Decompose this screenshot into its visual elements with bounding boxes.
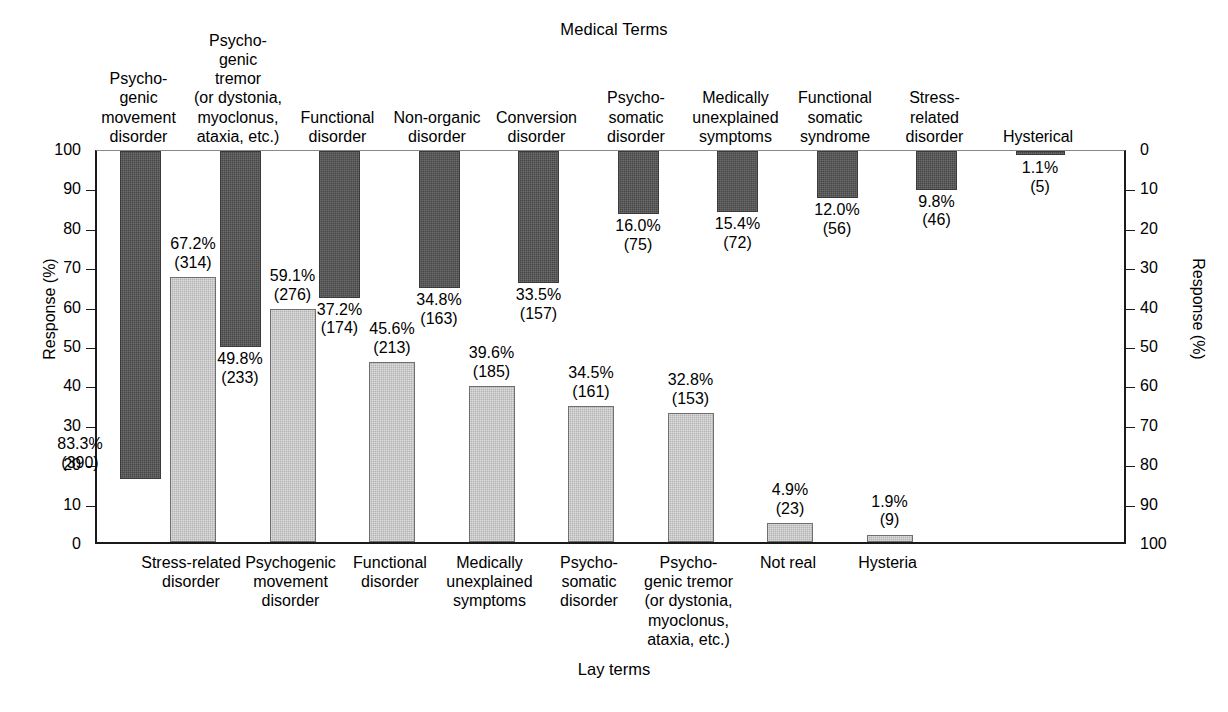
y-tick-right <box>1124 309 1135 310</box>
bar-value-label-medical: 1.1%(5) <box>985 159 1095 197</box>
y-tick-label-right: 80 <box>1140 457 1186 473</box>
y-tick-label-right: 90 <box>1140 497 1186 513</box>
bar-value-label-medical: 15.4%(72) <box>683 215 793 253</box>
bar-lay <box>767 523 813 542</box>
y-tick-right <box>1124 348 1135 349</box>
y-tick-left <box>86 427 97 428</box>
bar-lay <box>469 386 515 542</box>
bar-medical <box>916 151 957 190</box>
y-tick-right <box>1124 466 1135 467</box>
bar-lay <box>668 413 714 542</box>
chart-bottom-title: Lay terms <box>0 660 1228 679</box>
bar-value-label-lay: 45.6%(213) <box>337 320 447 358</box>
y-tick-right <box>1124 269 1135 270</box>
bar-lay <box>270 309 316 542</box>
bar-medical <box>817 151 858 198</box>
y-tick-label-left: 30 <box>35 418 81 434</box>
bar-value-label-lay: 32.8%(153) <box>636 371 746 409</box>
y-tick-left <box>86 190 97 191</box>
bar-medical <box>120 151 161 479</box>
y-tick-label-right: 20 <box>1140 221 1186 237</box>
y-tick-label-left: 10 <box>35 497 81 513</box>
bar-value-label-medical: 33.5%(157) <box>484 286 594 324</box>
y-tick-label-left: 40 <box>35 378 81 394</box>
y-tick-left <box>86 506 97 507</box>
y-tick-left <box>86 269 97 270</box>
y-tick-left <box>86 387 97 388</box>
bar-medical <box>618 151 659 214</box>
bar-lay <box>170 277 216 542</box>
bar-lay <box>568 406 614 542</box>
y-tick-label-left: 50 <box>35 339 81 355</box>
y-tick-label-right: 30 <box>1140 260 1186 276</box>
bar-medical <box>518 151 559 283</box>
y-tick-left <box>86 309 97 310</box>
y-tick-right <box>1124 387 1135 388</box>
bar-value-label-lay: 4.9%(23) <box>735 481 845 519</box>
y-tick-right <box>1124 506 1135 507</box>
bar-value-label-medical: 16.0%(75) <box>583 217 693 255</box>
y-tick-right <box>1124 190 1135 191</box>
y-tick-label-left: 100 <box>35 142 81 158</box>
y-tick-label-left: 80 <box>35 221 81 237</box>
bar-value-label-lay: 67.2%(314) <box>138 235 248 273</box>
bar-value-label-medical: 9.8%(46) <box>882 193 992 231</box>
y-tick-label-right: 70 <box>1140 418 1186 434</box>
bar-medical <box>419 151 460 288</box>
y-tick-label-left: 70 <box>35 260 81 276</box>
y-tick-label-left: 0 <box>35 536 81 552</box>
bar-value-label-lay: 59.1%(276) <box>238 267 348 305</box>
bar-value-label-lay: 1.9%(9) <box>835 493 945 531</box>
bar-value-label-lay: 39.6%(185) <box>437 344 547 382</box>
y-tick-label-left: 90 <box>35 181 81 197</box>
bar-medical <box>717 151 758 212</box>
category-label-medical: Hysterical <box>979 127 1097 146</box>
bar-lay <box>867 535 913 542</box>
bar-value-label-lay: 34.5%(161) <box>536 364 646 402</box>
category-label-lay: Hysteria <box>825 553 951 572</box>
y-axis-title-right: Response (%) <box>1189 219 1207 399</box>
bar-medical <box>1016 151 1065 155</box>
y-tick-label-right: 40 <box>1140 300 1186 316</box>
y-tick-label-right: 100 <box>1140 536 1186 552</box>
plot-area: 0102030405060708090100010203040506070809… <box>95 150 1126 544</box>
bar-value-label-medical: 83.3%(390) <box>25 435 135 473</box>
y-tick-left <box>86 348 97 349</box>
y-tick-right <box>1124 230 1135 231</box>
y-tick-label-left: 60 <box>35 300 81 316</box>
category-label-medical: Stress-relateddisorder <box>876 88 994 146</box>
y-tick-left <box>86 230 97 231</box>
bar-value-label-medical: 12.0%(56) <box>782 201 892 239</box>
y-tick-label-right: 50 <box>1140 339 1186 355</box>
figure: Medical Terms Response (%) Response (%) … <box>0 0 1228 712</box>
y-tick-right <box>1124 427 1135 428</box>
y-tick-label-right: 10 <box>1140 181 1186 197</box>
y-tick-label-right: 0 <box>1140 142 1186 158</box>
y-tick-label-right: 60 <box>1140 378 1186 394</box>
bar-lay <box>369 362 415 542</box>
